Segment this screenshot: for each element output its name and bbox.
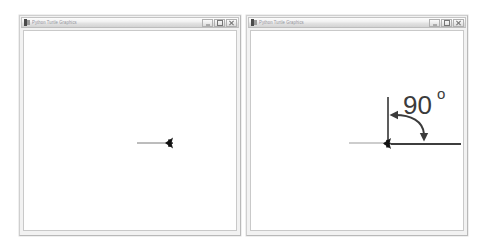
titlebar-left[interactable]: Python Turtle Graphics xyxy=(21,17,239,28)
canvas-area-left xyxy=(21,28,239,234)
titlebar-right[interactable]: Python Turtle Graphics xyxy=(248,17,466,28)
minimize-icon xyxy=(433,24,437,25)
window-title-left: Python Turtle Graphics xyxy=(32,20,202,26)
maximize-icon xyxy=(444,20,450,26)
python-turtle-icon xyxy=(251,19,257,26)
window-title-right: Python Turtle Graphics xyxy=(259,20,429,26)
turtle-window-right[interactable]: Python Turtle Graphics xyxy=(246,15,468,236)
close-button[interactable] xyxy=(226,19,237,27)
close-button[interactable] xyxy=(453,19,464,27)
screenshot-stage: Python Turtle Graphics xyxy=(0,0,491,251)
angle-value: 90 xyxy=(403,90,432,120)
maximize-button[interactable] xyxy=(441,19,452,27)
close-icon xyxy=(456,20,461,25)
minimize-button[interactable] xyxy=(429,19,440,27)
minimize-button[interactable] xyxy=(202,19,213,27)
turtle-cursor xyxy=(165,138,173,149)
turtle-window-left[interactable]: Python Turtle Graphics xyxy=(19,15,241,236)
python-turtle-icon xyxy=(24,19,30,26)
arrowhead-down xyxy=(420,133,428,142)
minimize-icon xyxy=(206,24,210,25)
turtle-drawing-left xyxy=(24,31,237,231)
maximize-button[interactable] xyxy=(214,19,225,27)
angle-unit-glyph: o xyxy=(437,85,445,102)
window-controls-left xyxy=(202,19,237,27)
window-controls-right xyxy=(429,19,464,27)
arrowhead-left xyxy=(390,111,399,119)
turtle-canvas-right[interactable]: 90 o xyxy=(250,30,464,231)
angle-label: 90 o xyxy=(403,85,445,120)
canvas-area-right: 90 o xyxy=(248,28,466,234)
turtle-canvas-left[interactable] xyxy=(23,30,237,231)
turtle-drawing-right: 90 o xyxy=(251,31,464,231)
close-icon xyxy=(229,20,234,25)
maximize-icon xyxy=(217,20,223,26)
